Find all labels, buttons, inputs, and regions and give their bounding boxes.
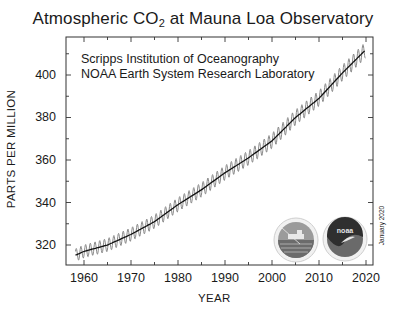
date-stamp: January 2020 <box>378 201 385 251</box>
scripps-logo <box>274 218 318 262</box>
svg-text:noaa: noaa <box>337 227 353 234</box>
y-tick-label: 340 <box>26 196 56 210</box>
x-tick-label: 1990 <box>205 271 245 285</box>
y-axis-label: PARTS PER MILLION <box>5 89 17 209</box>
credit-noaa: NOAA Earth System Research Laboratory <box>81 67 314 81</box>
x-tick-label: 1980 <box>158 271 198 285</box>
y-tick-label: 320 <box>26 238 56 252</box>
x-tick-label: 1960 <box>64 271 104 285</box>
y-tick-label: 400 <box>26 68 56 82</box>
x-tick-label: 2020 <box>346 271 386 285</box>
y-tick-label: 380 <box>26 110 56 124</box>
x-axis-label: YEAR <box>198 292 231 304</box>
x-tick-label: 2010 <box>299 271 339 285</box>
noaa-logo: noaa <box>323 217 367 261</box>
y-tick-label: 360 <box>26 153 56 167</box>
x-tick-label: 2000 <box>252 271 292 285</box>
credit-scripps: Scripps Institution of Oceanography <box>81 52 279 66</box>
trend-line <box>76 51 365 255</box>
x-tick-label: 1970 <box>111 271 151 285</box>
